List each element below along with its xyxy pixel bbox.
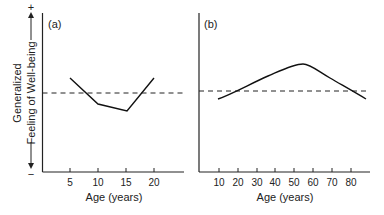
panel-b-tick-label: 80 xyxy=(345,177,357,188)
panel-b-wellbeing-curve xyxy=(218,64,366,99)
y-axis-minus: − xyxy=(28,168,34,180)
panel-b-tick-label: 50 xyxy=(288,177,300,188)
panel-b-tick-label: 30 xyxy=(251,177,263,188)
panel-a-tick-label: 5 xyxy=(67,177,73,188)
panel-a-x-axis-title: Age (years) xyxy=(86,191,143,203)
y-axis-plus: + xyxy=(28,1,34,13)
panel-b-label: (b) xyxy=(204,18,217,30)
panel-b-tick-label: 70 xyxy=(326,177,338,188)
panel-a: (a) 5 10 15 20 Age (years) xyxy=(43,13,185,203)
arrow-down-icon xyxy=(28,142,34,169)
panel-a-tick-label: 20 xyxy=(148,177,160,188)
y-axis-label-line2: Feeling of Well-being xyxy=(25,41,37,144)
panel-b-tick-label: 20 xyxy=(232,177,244,188)
panel-b-x-axis-title: Age (years) xyxy=(257,191,314,203)
panel-b-tick-label: 10 xyxy=(213,177,225,188)
panel-a-tick-label: 15 xyxy=(120,177,132,188)
panel-b-tick-label: 40 xyxy=(269,177,281,188)
panel-a-label: (a) xyxy=(48,18,61,30)
panel-a-wellbeing-line xyxy=(70,78,154,111)
y-axis-label-group: Generalized Feeling of Well-being + − xyxy=(11,1,37,180)
panel-a-tick-label: 10 xyxy=(92,177,104,188)
y-axis-label-line1: Generalized xyxy=(11,63,23,122)
arrow-up-icon xyxy=(28,12,34,40)
panel-b-tick-label: 60 xyxy=(307,177,319,188)
panel-b: (b) 10 20 30 40 50 60 70 80 Age (years) xyxy=(199,13,370,203)
figure-canvas: Generalized Feeling of Well-being + − (a… xyxy=(0,0,384,215)
